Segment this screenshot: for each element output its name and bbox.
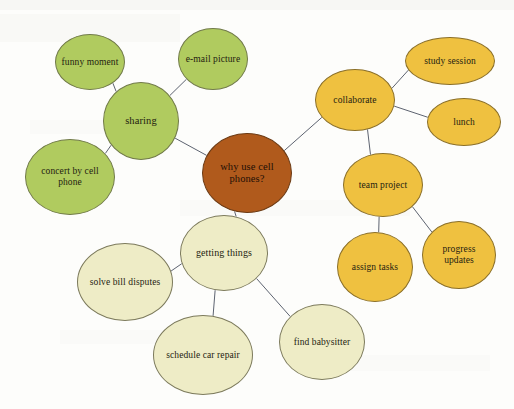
node-babysitter[interactable]: find babysitter (279, 304, 365, 380)
node-label: funny moment (62, 57, 119, 68)
node-label: concert by cell phone (30, 166, 110, 187)
edge-team-progress (412, 207, 431, 232)
edge-getting-schedule (213, 290, 215, 316)
edge-center-sharing (175, 138, 206, 155)
node-label: assign tasks (352, 262, 398, 273)
node-progress[interactable]: progress updates (422, 221, 496, 289)
node-label: schedule car repair (166, 350, 240, 361)
node-label: why use cell phones? (207, 161, 287, 185)
node-concert[interactable]: concert by cell phone (25, 139, 115, 215)
node-getting[interactable]: getting things (180, 215, 268, 291)
node-label: getting things (196, 247, 252, 258)
edge-collaborate-team (368, 129, 371, 154)
node-study[interactable]: study session (405, 37, 495, 85)
edge-getting-babysitter (257, 279, 291, 317)
node-label: solve bill disputes (90, 277, 161, 288)
edge-collaborate-lunch (394, 106, 428, 117)
node-label: collaborate (333, 95, 376, 106)
node-assign[interactable]: assign tasks (337, 232, 413, 302)
edge-center-collaborate (284, 117, 322, 150)
node-label: team project (359, 180, 407, 191)
node-label: sharing (125, 115, 157, 127)
mind-map-canvas: why use cell phones?sharingfunny momente… (0, 0, 514, 409)
node-label: find babysitter (294, 337, 351, 348)
edge-sharing-concert (105, 145, 111, 153)
node-solve[interactable]: solve bill disputes (77, 243, 173, 321)
node-schedule[interactable]: schedule car repair (153, 315, 253, 395)
edge-getting-solve (171, 264, 182, 271)
node-lunch[interactable]: lunch (427, 98, 501, 146)
node-center[interactable]: why use cell phones? (202, 133, 292, 213)
node-label: e-mail picture (186, 54, 240, 65)
node-label: lunch (453, 117, 475, 128)
node-sharing[interactable]: sharing (103, 82, 179, 160)
node-email[interactable]: e-mail picture (178, 28, 248, 90)
edge-sharing-email (170, 79, 187, 95)
edge-collaborate-study (392, 70, 408, 88)
node-team[interactable]: team project (343, 153, 423, 217)
node-label: progress updates (427, 244, 491, 265)
node-funny[interactable]: funny moment (55, 34, 125, 90)
node-collaborate[interactable]: collaborate (315, 69, 395, 131)
node-label: study session (424, 56, 476, 67)
